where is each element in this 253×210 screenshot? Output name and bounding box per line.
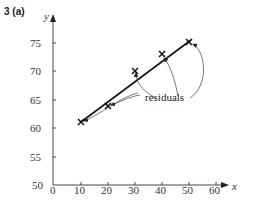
svg-text:70: 70 [30, 65, 42, 77]
svg-text:60: 60 [209, 184, 221, 196]
residuals-annotation: residuals [145, 91, 184, 103]
svg-text:50: 50 [32, 179, 44, 191]
svg-text:75: 75 [30, 37, 42, 49]
svg-text:65: 65 [30, 94, 42, 106]
svg-text:60: 60 [30, 122, 42, 134]
x-ticks: 0 10 20 30 40 50 60 [50, 182, 221, 196]
svg-text:0: 0 [50, 184, 56, 196]
svg-text:10: 10 [74, 184, 86, 196]
svg-text:40: 40 [155, 184, 167, 196]
residual-arrows [84, 44, 204, 121]
y-axis-label: y [43, 10, 49, 22]
svg-text:20: 20 [101, 184, 113, 196]
svg-text:30: 30 [128, 184, 140, 196]
svg-text:50: 50 [182, 184, 194, 196]
y-ticks: 75 70 65 60 55 50 [30, 37, 56, 191]
x-axis-label: x [231, 180, 237, 192]
svg-text:55: 55 [30, 151, 42, 163]
scatter-chart: y x 75 70 65 60 55 50 0 10 20 30 40 50 6… [0, 0, 253, 210]
